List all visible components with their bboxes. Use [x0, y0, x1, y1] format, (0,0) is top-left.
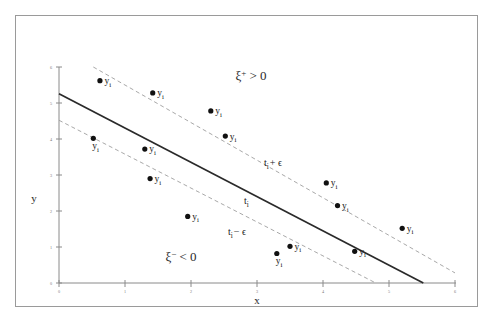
- upper-region-text: ξ+ > 0: [235, 68, 266, 83]
- y-tick-label-3: 3: [50, 173, 52, 178]
- data-point: [274, 251, 279, 256]
- data-point: [335, 203, 340, 208]
- data-point-label-sub: i: [159, 179, 161, 187]
- data-point-label: yi: [92, 141, 99, 154]
- data-point-group: yi: [150, 88, 164, 101]
- y-tick-label-2: 2: [50, 209, 52, 214]
- line-label-upper-sub: i: [267, 163, 269, 171]
- data-point-label-sub: i: [347, 206, 349, 214]
- y-axis-title: y: [31, 192, 37, 204]
- data-point: [142, 146, 147, 151]
- data-point-label: yi: [230, 132, 237, 145]
- data-point-label: yi: [276, 256, 283, 269]
- data-point-group: yi: [287, 242, 301, 255]
- line-label-upper-text: ti+ ϵ: [264, 157, 282, 171]
- data-point-group: yi: [185, 212, 199, 225]
- data-point: [287, 244, 292, 249]
- margin-line-lower: [59, 120, 376, 283]
- regression-line: [59, 94, 423, 283]
- y-tick-label-5: 5: [50, 101, 52, 106]
- data-point-label-sub: i: [154, 149, 156, 157]
- xi-plus-relation: > 0: [246, 68, 266, 83]
- data-point-label: yi: [215, 106, 222, 119]
- line-label-lower: ti− ϵ: [228, 226, 246, 240]
- data-point-label: yi: [407, 224, 414, 237]
- data-point-group: yi: [142, 144, 156, 157]
- line-label-center: ti: [244, 195, 249, 209]
- y-tick-label-1: 1: [50, 245, 52, 250]
- data-point-label-sub: i: [97, 146, 99, 154]
- data-point-label: yi: [149, 144, 156, 157]
- y-tick-label-0: 0: [50, 281, 52, 286]
- data-point: [147, 176, 152, 181]
- data-point-group: yi: [223, 132, 237, 145]
- data-point-group: yi: [274, 251, 282, 269]
- x-tick-label-1: 1: [124, 289, 126, 294]
- lower-region-text: ξ− < 0: [165, 249, 196, 264]
- x-tick-label-0: 0: [58, 289, 60, 294]
- data-point-label-sub: i: [220, 111, 222, 119]
- data-point-label: yi: [342, 201, 349, 214]
- data-point-label-sub: i: [197, 216, 199, 224]
- data-point-group: yi: [208, 106, 222, 119]
- data-point-label-sub: i: [364, 251, 366, 259]
- line-label-lower-text: ti− ϵ: [228, 226, 246, 240]
- data-point-label-sub: i: [235, 136, 237, 144]
- data-point-label: yi: [192, 212, 199, 225]
- data-point-label: yi: [295, 242, 302, 255]
- y-tick-label-4: 4: [50, 137, 53, 142]
- data-point-group: yi: [400, 224, 414, 237]
- x-tick-label-2: 2: [190, 289, 192, 294]
- data-point-label: yi: [155, 174, 162, 187]
- svr-epsilon-tube-plot: 0 1 2 3 4 5 6 y 0 1 2: [16, 16, 477, 306]
- margin-line-upper: [93, 67, 455, 273]
- data-point-label-sub: i: [281, 261, 283, 269]
- data-point: [400, 226, 405, 231]
- data-point: [223, 134, 228, 139]
- y-tick-label-6: 6: [50, 65, 52, 70]
- data-point-group: yi: [324, 178, 338, 191]
- x-tick-label-5: 5: [388, 289, 390, 294]
- line-label-upper: ti+ ϵ: [264, 157, 282, 171]
- data-point-label: yi: [331, 178, 338, 191]
- data-point: [208, 108, 213, 113]
- data-point-label-sub: i: [109, 81, 111, 89]
- series-group: [59, 67, 455, 283]
- data-point-group: yi: [91, 136, 99, 154]
- lower-region-annotation: ξ− < 0: [165, 249, 196, 264]
- line-label-lower-tail: − ϵ: [234, 226, 246, 237]
- data-point-label-sub: i: [411, 228, 413, 236]
- data-point-group: yi: [352, 247, 366, 260]
- data-points-group: yiyiyiyiyiyiyiyiyiyiyiyiyiyi: [91, 76, 414, 269]
- x-tick-label-6: 6: [454, 289, 456, 294]
- data-point-label: yi: [157, 88, 164, 101]
- data-point: [97, 78, 102, 83]
- data-point-label: yi: [104, 76, 111, 89]
- x-tick-label-4: 4: [322, 289, 325, 294]
- x-axis: 0 1 2 3 4 5 6 x: [58, 280, 456, 306]
- data-point: [324, 180, 329, 185]
- upper-region-annotation: ξ+ > 0: [235, 68, 266, 83]
- x-axis-title: x: [254, 294, 260, 306]
- data-point: [150, 90, 155, 95]
- figure-root: 0 1 2 3 4 5 6 y 0 1 2: [0, 0, 495, 324]
- data-point-label-sub: i: [299, 246, 301, 254]
- data-point-group: yi: [335, 201, 349, 214]
- line-label-lower-sub: i: [231, 232, 233, 240]
- data-point-label-sub: i: [336, 183, 338, 191]
- data-point: [91, 136, 96, 141]
- data-point-group: yi: [97, 76, 111, 89]
- y-axis: 0 1 2 3 4 5 6 y: [31, 65, 62, 286]
- line-label-upper-tail: + ϵ: [270, 157, 282, 168]
- line-label-center-sub: i: [247, 201, 249, 209]
- data-point-label-sub: i: [162, 93, 164, 101]
- data-point: [185, 214, 190, 219]
- data-point-group: yi: [147, 174, 161, 187]
- data-point-label: yi: [359, 247, 366, 260]
- data-point: [352, 249, 357, 254]
- line-label-center-text: ti: [244, 195, 249, 209]
- figure-frame: 0 1 2 3 4 5 6 y 0 1 2: [15, 15, 478, 307]
- xi-minus-relation: < 0: [176, 249, 196, 264]
